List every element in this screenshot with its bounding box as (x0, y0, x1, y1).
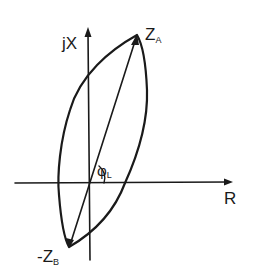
zb-label: -ZB (37, 247, 59, 267)
r-label: R (224, 189, 236, 208)
impedance-line (70, 38, 136, 245)
za-label: ZA (145, 25, 161, 45)
r-axis-arrow-icon (224, 179, 233, 186)
jx-label: jX (61, 34, 77, 53)
impedance-diagram: jX R ZA -ZB φL (0, 0, 256, 278)
jx-axis-arrow-icon (85, 27, 92, 37)
phi-label: φL (97, 162, 112, 180)
jx-axis (85, 27, 92, 260)
